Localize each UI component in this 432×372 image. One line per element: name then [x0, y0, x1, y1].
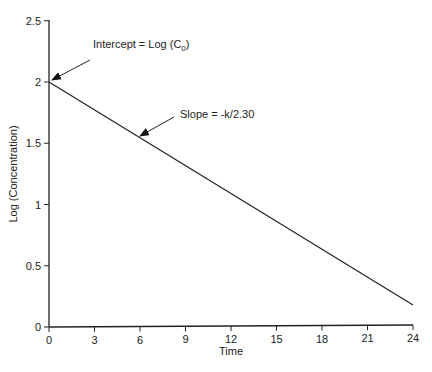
slope-arrow — [140, 117, 174, 136]
intercept-label: Intercept = Log (C0) — [93, 38, 189, 53]
y-tick-label: 1.5 — [26, 137, 41, 149]
x-tick-label: 15 — [270, 333, 282, 345]
slope-label: Slope = -k/2.30 — [180, 108, 254, 120]
y-ticks: 00.511.522.5 — [26, 15, 49, 333]
y-tick-label: 0.5 — [26, 260, 41, 272]
x-tick-label: 21 — [361, 332, 373, 344]
x-ticks: 03691215182124 — [46, 325, 419, 346]
chart: 00.511.522.5 03691215182124 Intercept = … — [0, 0, 432, 372]
y-tick-label: 1 — [35, 199, 41, 211]
intercept-arrow — [52, 60, 90, 80]
x-axis-label: Time — [219, 345, 243, 357]
y-axis-label: Log (Concentration) — [7, 125, 19, 222]
x-tick-label: 12 — [225, 333, 237, 345]
x-tick-label: 3 — [91, 334, 97, 346]
y-tick-label: 2 — [35, 76, 41, 88]
x-tick-label: 9 — [182, 333, 188, 345]
y-tick-label: 2.5 — [26, 15, 41, 27]
x-tick-label: 18 — [316, 333, 328, 345]
y-tick-label: 0 — [35, 321, 41, 333]
x-tick-label: 0 — [46, 334, 52, 346]
x-tick-label: 24 — [407, 332, 419, 344]
x-tick-label: 6 — [137, 334, 143, 346]
